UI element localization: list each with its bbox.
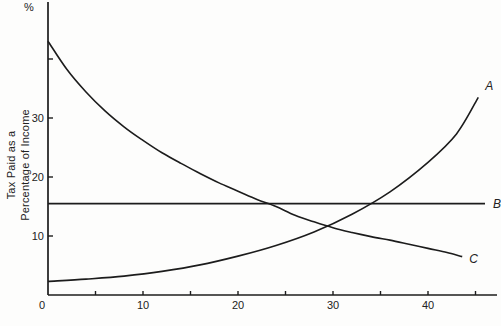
curve-label-C: C: [469, 252, 478, 266]
chart-canvas: 102030400102030ABC: [0, 0, 501, 326]
x-tick-label: 40: [422, 299, 434, 311]
tax-chart-figure: % Tax Paid as a Percentage of Income 102…: [0, 0, 501, 326]
curve-regressive-tax: [48, 41, 462, 256]
y-axis-title: Tax Paid as a Percentage of Income: [4, 85, 32, 245]
x-tick-label: 10: [137, 299, 149, 311]
origin-tick-label: 0: [39, 299, 45, 311]
curve-label-B: B: [493, 197, 501, 211]
y-axis-title-line1: Tax Paid as a: [4, 85, 18, 245]
y-tick-label: 30: [32, 112, 44, 124]
y-tick-label: 10: [32, 230, 44, 242]
x-tick-label: 20: [232, 299, 244, 311]
y-axis-title-line2: Percentage of Income: [18, 85, 32, 245]
y-axis-unit-label: %: [24, 1, 34, 13]
x-tick-label: 30: [327, 299, 339, 311]
curve-label-A: A: [484, 79, 493, 93]
y-tick-label: 20: [32, 171, 44, 183]
curve-progressive-tax: [48, 97, 478, 281]
